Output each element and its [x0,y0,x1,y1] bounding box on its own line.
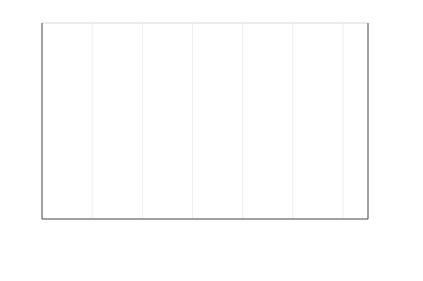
chart-figure [0,0,423,281]
axis-spines [42,23,368,219]
gridlines [92,23,343,219]
chart-plot-svg [0,0,423,281]
